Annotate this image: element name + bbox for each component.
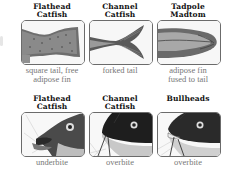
image-bullhead-head-overbite bbox=[157, 112, 221, 157]
caption-madtom-tail: adipose fin fused to tail bbox=[148, 66, 228, 84]
title-line: Madtom bbox=[156, 11, 220, 19]
title-line: Catfish bbox=[88, 103, 152, 111]
caption-line: adipose fin bbox=[12, 75, 92, 84]
image-channel-head-overbite bbox=[89, 112, 153, 157]
caption-line: overbite bbox=[148, 158, 228, 167]
title-line: Catfish bbox=[20, 103, 84, 111]
image-flathead-square-tail bbox=[21, 20, 85, 65]
caption-bullheads-head: overbite bbox=[148, 158, 228, 167]
image-madtom-fused-adipose bbox=[157, 20, 221, 65]
title-madtom-tail: Tadpole Madtom bbox=[156, 3, 220, 18]
image-flathead-head-underbite bbox=[21, 112, 85, 157]
title-line: Bullheads bbox=[156, 95, 220, 103]
title-line: Catfish bbox=[20, 11, 84, 19]
title-flathead-tail: Flathead Catfish bbox=[20, 3, 84, 18]
left-edge-mark bbox=[0, 36, 3, 46]
title-flathead-head: Flathead Catfish bbox=[20, 95, 84, 110]
title-channel-tail: Channel Catfish bbox=[88, 3, 152, 18]
title-channel-head: Channel Catfish bbox=[88, 95, 152, 110]
image-channel-forked-tail bbox=[89, 20, 153, 65]
title-line: Catfish bbox=[88, 11, 152, 19]
caption-line: fused to tail bbox=[148, 75, 228, 84]
title-bullheads-head: Bullheads bbox=[156, 95, 220, 103]
